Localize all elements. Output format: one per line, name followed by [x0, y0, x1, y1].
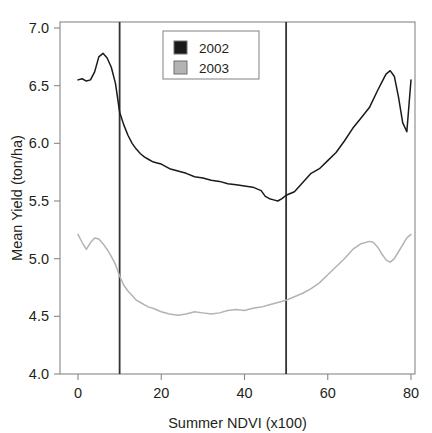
y-tick-label: 6.5: [29, 78, 49, 94]
legend-label-2003: 2003: [199, 61, 229, 76]
x-tick-label: 60: [320, 385, 336, 401]
chart-legend: 20022003: [163, 31, 259, 79]
x-tick-label: 0: [74, 385, 82, 401]
chart-figure: 4.04.55.05.56.06.57.0020406080Summer NDV…: [0, 0, 432, 433]
y-tick-label: 4.0: [29, 366, 49, 382]
y-tick-label: 6.0: [29, 135, 49, 151]
x-tick-label: 40: [236, 385, 252, 401]
y-tick-label: 5.5: [29, 193, 49, 209]
x-tick-label: 80: [403, 385, 419, 401]
y-tick-label: 7.0: [29, 20, 49, 36]
legend-swatch-2003: [174, 61, 187, 74]
legend-swatch-2002: [174, 41, 187, 54]
y-tick-label: 4.5: [29, 308, 49, 324]
legend-label-2002: 2002: [199, 41, 229, 56]
y-tick-label: 5.0: [29, 251, 49, 267]
series-line-2003: [78, 234, 411, 315]
chart-svg: 4.04.55.05.56.06.57.0020406080Summer NDV…: [0, 0, 432, 433]
x-tick-label: 20: [153, 385, 169, 401]
x-axis-title: Summer NDVI (x100): [168, 415, 307, 431]
y-axis-title: Mean Yield (ton/ha): [9, 135, 25, 261]
